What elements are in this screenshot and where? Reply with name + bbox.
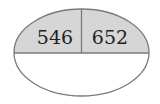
cell-top-left-value: 546: [37, 26, 73, 48]
ellipse-diagram: 546 652: [0, 0, 160, 104]
cell-top-right-value: 652: [92, 26, 128, 48]
ellipse-diagram-svg: 546 652: [0, 0, 160, 104]
